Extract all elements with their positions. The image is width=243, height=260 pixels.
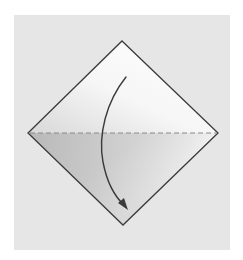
- origami-diagram: [0, 0, 243, 260]
- diagram-canvas: [0, 0, 243, 260]
